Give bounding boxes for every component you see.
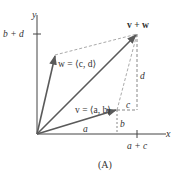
component-a-label: a [83, 124, 88, 134]
vector-addition-diagram: y x b + d a + c v + w w = ⟨c, d⟩ v = ⟨a,… [0, 0, 183, 178]
y-axis-label: y [31, 9, 37, 20]
figure-caption: (A) [98, 159, 112, 171]
component-d-label: d [140, 71, 145, 81]
x-axis-label: x [165, 128, 171, 139]
component-b-label: b [120, 119, 125, 129]
w-vector-label: w = ⟨c, d⟩ [58, 59, 96, 69]
x-tick-label: a + c [127, 141, 148, 151]
dashed-v-to-sum [117, 34, 137, 110]
dashed-w-to-sum [55, 34, 137, 55]
sum-vector-label: v + w [127, 20, 149, 30]
component-c-label: c [126, 100, 131, 110]
vector-w [37, 56, 55, 134]
v-vector-label: v = ⟨a, b⟩ [75, 105, 111, 115]
y-tick-label: b + d [3, 29, 24, 39]
